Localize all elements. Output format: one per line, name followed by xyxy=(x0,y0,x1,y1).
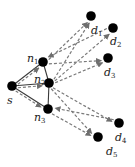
label-d4: d4 xyxy=(115,131,127,145)
node-d3 xyxy=(103,53,113,63)
node-n2 xyxy=(44,78,54,88)
label-s: s xyxy=(7,94,13,107)
arrow-n2-to-d4 xyxy=(53,88,112,122)
node-d1 xyxy=(86,11,96,21)
arrow-s-to-n3 xyxy=(16,91,41,107)
label-n2: n2 xyxy=(34,73,46,87)
label-d1: d1 xyxy=(91,24,103,38)
arrow-n3-to-d5 xyxy=(52,114,91,136)
node-n1 xyxy=(38,57,48,67)
node-s xyxy=(7,81,17,91)
edge-s-n3 xyxy=(12,86,48,109)
label-n3: n3 xyxy=(34,111,46,125)
label-d3: d3 xyxy=(104,66,116,80)
arrow-s-to-n2 xyxy=(18,86,42,88)
node-d4 xyxy=(114,118,124,128)
node-n3 xyxy=(43,104,53,114)
network-diagram: sn1n2n3d1d2d3d4d5 xyxy=(0,0,135,167)
node-d2 xyxy=(108,23,118,33)
arrow-n2-to-d5 xyxy=(51,89,92,134)
label-n1: n1 xyxy=(27,52,39,66)
node-d5 xyxy=(93,132,103,142)
label-d2: d2 xyxy=(110,35,122,49)
label-d5: d5 xyxy=(106,145,118,159)
dashed-arrows xyxy=(16,22,114,135)
node-labels: sn1n2n3d1d2d3d4d5 xyxy=(7,24,127,159)
